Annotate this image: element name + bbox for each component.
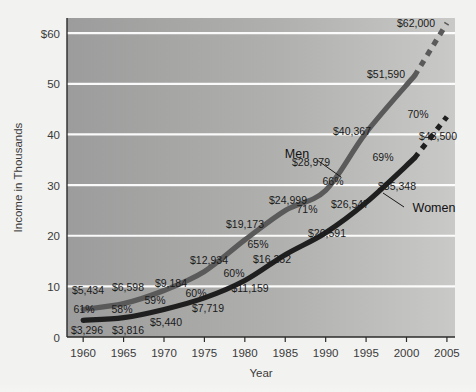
- x-tick-label-2005: 2005: [434, 347, 460, 359]
- women-value-label-1960: $3,296: [71, 324, 103, 336]
- x-tick-label-1990: 1990: [313, 347, 339, 359]
- women-value-label-1985: $16,252: [253, 253, 291, 265]
- y-tick-label-30: 30: [47, 180, 60, 192]
- women-series-label: Women: [413, 201, 456, 215]
- y-tick-label-50: 50: [47, 78, 60, 90]
- y-tick-label-0: 0: [54, 332, 60, 344]
- men-value-label-1960: $5,434: [72, 284, 104, 296]
- men-series-label: Men: [285, 147, 309, 161]
- income-gap-line-chart: 01020304050$6019601965197019751980198519…: [0, 0, 476, 392]
- y-tick-label-40: 40: [47, 129, 60, 141]
- x-tick-label-1985: 1985: [272, 347, 298, 359]
- men-value-label-1965: $6,598: [112, 281, 144, 293]
- y-tick-label-20: 20: [47, 230, 60, 242]
- chart-figure: 01020304050$6019601965197019751980198519…: [0, 0, 476, 392]
- x-tick-label-1995: 1995: [353, 347, 379, 359]
- y-axis-title: Income in Thousands: [12, 122, 24, 232]
- ratio-label-2001: 69%: [372, 151, 393, 163]
- ratio-label-1980: 60%: [223, 267, 244, 279]
- women-value-label-1965: $3,816: [112, 324, 144, 336]
- ratio-label-1975: 60%: [185, 287, 206, 299]
- ratio-label-2005: 70%: [407, 108, 428, 120]
- men-value-label-2001: $51,590: [367, 68, 405, 80]
- women-value-label-1995: $26,547: [331, 198, 369, 210]
- ratio-label-1965: 58%: [111, 303, 132, 315]
- y-tick-label-60: $60: [41, 28, 60, 40]
- ratio-label-1990: 71%: [296, 203, 317, 215]
- women-value-label-2001: $35,348: [378, 180, 416, 192]
- y-tick-label-10: 10: [47, 281, 60, 293]
- men-value-label-1980: $19,173: [226, 218, 264, 230]
- x-tick-label-1970: 1970: [151, 347, 177, 359]
- men-value-label-1970: $9,184: [155, 277, 187, 289]
- men-value-label-1995: $40,367: [333, 125, 371, 137]
- x-tick-label-2000: 2000: [394, 347, 420, 359]
- ratio-label-1960: 61%: [73, 303, 94, 315]
- x-tick-label-1960: 1960: [70, 347, 96, 359]
- ratio-label-1970: 59%: [144, 294, 165, 306]
- women-value-label-1975: $7,719: [192, 302, 224, 314]
- men-value-label-2005: $62,000: [397, 17, 435, 29]
- men-value-label-1975: $12,934: [190, 254, 228, 266]
- x-tick-label-1965: 1965: [111, 347, 137, 359]
- footer-clipped-text: [4, 385, 154, 392]
- women-value-label-1990: $20,591: [308, 227, 346, 239]
- x-axis-title: Year: [249, 367, 272, 379]
- x-tick-label-1980: 1980: [232, 347, 258, 359]
- women-value-label-1970: $5,440: [150, 316, 182, 328]
- women-value-label-2005: $43,500: [419, 130, 457, 142]
- women-value-label-1980: $11,159: [231, 282, 268, 294]
- x-tick-label-1975: 1975: [192, 347, 218, 359]
- ratio-label-1985: 65%: [247, 238, 268, 250]
